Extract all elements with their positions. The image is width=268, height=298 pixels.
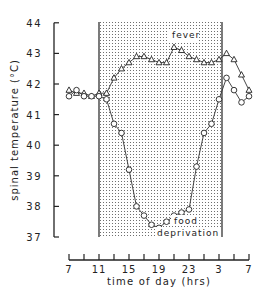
circle-marker bbox=[81, 93, 87, 99]
circle-marker bbox=[134, 204, 140, 210]
circle-marker bbox=[141, 213, 147, 219]
circle-marker bbox=[194, 164, 200, 170]
circle-marker bbox=[119, 130, 125, 136]
circle-marker bbox=[164, 219, 170, 225]
circle-marker bbox=[74, 87, 80, 93]
circle-marker bbox=[179, 210, 185, 216]
y-tick-label: 43 bbox=[26, 48, 42, 59]
circle-marker bbox=[246, 93, 252, 99]
y-tick-label: 40 bbox=[26, 140, 42, 151]
circle-marker bbox=[186, 207, 192, 213]
y-tick-label: 39 bbox=[26, 171, 42, 182]
circle-marker bbox=[111, 121, 117, 127]
x-tick-label: 7 bbox=[245, 264, 252, 275]
x-tick-label: 23 bbox=[182, 264, 197, 275]
temperature-chart: 373839404142434471115192337 fever food d… bbox=[0, 0, 268, 298]
circle-marker bbox=[89, 93, 95, 99]
circle-marker bbox=[216, 97, 222, 103]
x-tick-label: 19 bbox=[152, 264, 167, 275]
food-label-line1: food bbox=[174, 216, 198, 226]
shaded-dark-period bbox=[99, 22, 222, 237]
circle-marker bbox=[201, 130, 207, 136]
x-tick-label: 3 bbox=[215, 264, 222, 275]
circle-marker bbox=[231, 87, 237, 93]
triangle-marker bbox=[66, 87, 72, 92]
y-tick-label: 41 bbox=[26, 110, 42, 121]
circle-marker bbox=[96, 93, 102, 99]
circle-marker bbox=[104, 97, 110, 103]
y-tick-label: 44 bbox=[26, 18, 42, 29]
triangle-marker bbox=[239, 72, 245, 77]
triangle-marker bbox=[224, 50, 230, 55]
triangle-marker bbox=[231, 56, 237, 61]
x-tick-label: 15 bbox=[122, 264, 137, 275]
circle-marker bbox=[149, 222, 155, 228]
x-tick-label: 11 bbox=[92, 264, 107, 275]
y-tick-label: 38 bbox=[26, 201, 42, 212]
y-axis-title: spinal temperature (°C) bbox=[9, 59, 20, 201]
triangle-marker bbox=[246, 87, 252, 92]
circle-marker bbox=[126, 167, 132, 173]
stipple-fill bbox=[99, 22, 222, 237]
food-label-line2: deprivation bbox=[157, 228, 219, 238]
x-axis-title: time of day (hrs) bbox=[107, 276, 211, 287]
y-tick-label: 42 bbox=[26, 79, 42, 90]
fever-label: fever bbox=[172, 30, 200, 40]
circle-marker bbox=[209, 121, 215, 127]
circle-marker bbox=[239, 100, 245, 106]
circle-marker bbox=[224, 75, 230, 81]
circle-marker bbox=[66, 93, 72, 99]
x-tick-label: 7 bbox=[65, 264, 72, 275]
y-tick-label: 37 bbox=[26, 232, 42, 243]
